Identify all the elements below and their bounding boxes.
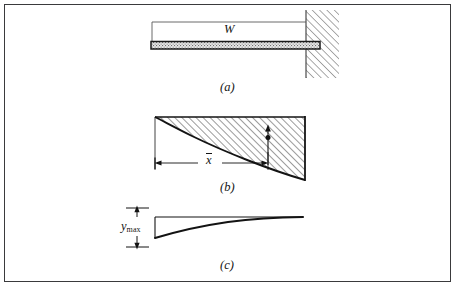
panel-caption-a: (a): [220, 80, 235, 95]
max-deflection-label-ymax: ymax: [121, 219, 141, 234]
deflection-curve: [155, 217, 303, 238]
ymax-subscript-glyph: max: [127, 225, 141, 234]
load-label-w: W: [224, 22, 234, 37]
figure-root: W x ymax (a) (b) (c): [0, 0, 457, 288]
panel-c-group: [126, 206, 303, 250]
panel-a-group: [151, 10, 339, 78]
dim-ymax-arrowhead-up-icon: [134, 206, 139, 213]
xbar-overline-glyph: x: [206, 152, 212, 168]
beam-bar: [151, 42, 320, 50]
panel-caption-c: (c): [220, 258, 234, 273]
load-area-hatched: [155, 117, 305, 180]
figure-drawing: [0, 0, 457, 288]
panel-b-group: [155, 116, 306, 181]
centroid-distance-label-xbar: x: [206, 152, 212, 168]
centroid-dot-marker: [266, 135, 271, 140]
panel-caption-b: (b): [220, 180, 235, 195]
dim-ymax-arrowhead-down-icon: [134, 243, 139, 250]
